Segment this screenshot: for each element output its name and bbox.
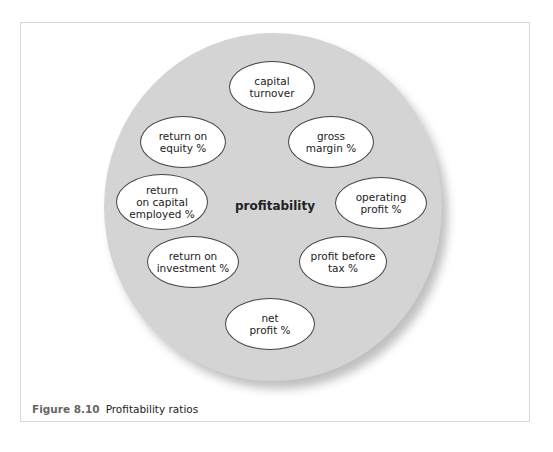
node-return-on-equity: return on equity % bbox=[140, 116, 226, 168]
node-net-profit: net profit % bbox=[225, 298, 315, 350]
figure-number: Figure 8.10 bbox=[32, 403, 100, 415]
node-profit-before-tax: profit before tax % bbox=[299, 236, 387, 288]
figure-caption: Figure 8.10Profitability ratios bbox=[32, 403, 198, 415]
figure-title: Profitability ratios bbox=[106, 403, 199, 415]
node-capital-turnover: capital turnover bbox=[229, 61, 315, 113]
node-return-on-investment: return on investment % bbox=[147, 236, 239, 288]
node-operating-profit: operating profit % bbox=[335, 177, 427, 229]
center-label: profitability bbox=[220, 199, 330, 213]
node-return-on-capital-employed: return on capital employed % bbox=[116, 174, 208, 230]
node-gross-margin: gross margin % bbox=[288, 116, 374, 168]
